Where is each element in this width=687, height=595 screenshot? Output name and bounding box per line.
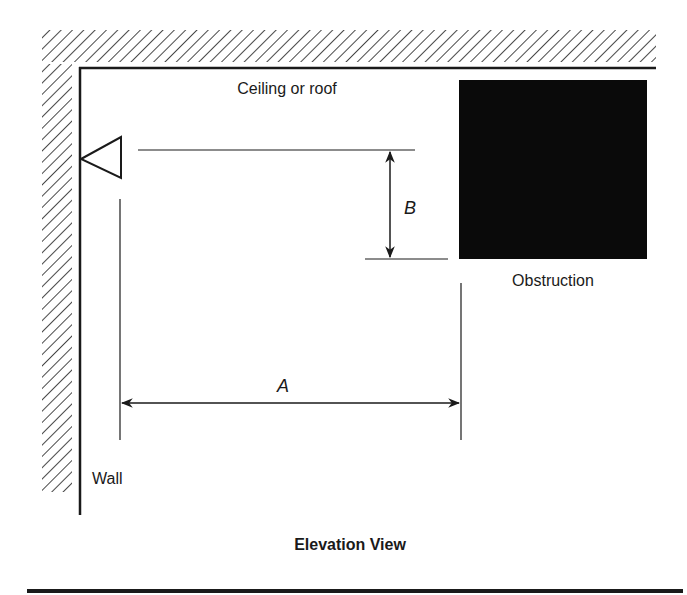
dimension-b-label: B bbox=[404, 198, 416, 218]
wall-label: Wall bbox=[92, 470, 123, 487]
ceiling-label: Ceiling or roof bbox=[237, 80, 337, 97]
obstruction-block bbox=[459, 80, 647, 259]
ceiling-hatch-right bbox=[314, 30, 656, 62]
diagram-title: Elevation View bbox=[294, 536, 406, 553]
dimension-a-label: A bbox=[276, 376, 289, 396]
obstruction-label: Obstruction bbox=[512, 272, 594, 289]
ceiling-hatch bbox=[42, 30, 314, 62]
wall-hatch bbox=[42, 64, 72, 492]
sprinkler-icon bbox=[81, 137, 121, 178]
elevation-view-diagram: B Obstruction Ceiling or roof A Wall Ele… bbox=[0, 0, 687, 595]
